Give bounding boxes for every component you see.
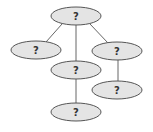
node-root-label: ? (73, 11, 79, 22)
node-right-label: ? (114, 46, 120, 57)
node-middle[interactable]: ? (51, 61, 101, 79)
node-root[interactable]: ? (51, 7, 101, 25)
node-left[interactable]: ? (11, 41, 61, 59)
tree-diagram: ? ? ? ? ? ? (0, 0, 153, 132)
node-bottom-label: ? (73, 107, 79, 118)
edge-root-left (46, 24, 62, 42)
node-right-child[interactable]: ? (92, 81, 142, 99)
node-right[interactable]: ? (92, 42, 142, 60)
node-bottom[interactable]: ? (51, 103, 101, 121)
node-left-label: ? (33, 45, 39, 56)
edge-root-right (90, 24, 108, 43)
node-right-child-label: ? (114, 85, 120, 96)
node-middle-label: ? (73, 65, 79, 76)
